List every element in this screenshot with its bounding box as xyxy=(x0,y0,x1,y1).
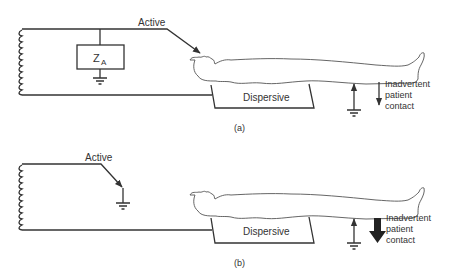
ground-icon xyxy=(93,78,107,84)
ground-icon xyxy=(347,110,361,116)
dispersive-label: Dispersive xyxy=(243,226,290,237)
active-label: Active xyxy=(85,152,113,163)
generator-coil-icon xyxy=(19,30,22,95)
impedance-label: Z xyxy=(93,52,100,64)
electrosurgery-diagram: Z A Active Dispersive Inadvertent patien… xyxy=(0,0,453,273)
active-lead-wire xyxy=(22,164,122,187)
generator-coil-icon xyxy=(19,165,22,230)
panel-b: Active Dispersive Inadvertent patient co… xyxy=(19,152,434,268)
ground-icon xyxy=(347,243,361,249)
contact-label: Inadvertent patient contact xyxy=(385,79,433,111)
active-lead-wire xyxy=(22,29,200,53)
caption-a: (a) xyxy=(234,123,245,133)
active-label: Active xyxy=(138,17,166,28)
impedance-subscript: A xyxy=(101,58,107,67)
panel-a: Z A Active Dispersive Inadvertent patien… xyxy=(19,17,433,133)
ground-icon xyxy=(116,203,130,209)
contact-arrow-bold xyxy=(369,218,386,243)
dispersive-label: Dispersive xyxy=(243,92,290,103)
caption-b: (b) xyxy=(234,258,245,268)
contact-label: Inadvertent patient contact xyxy=(386,213,434,245)
